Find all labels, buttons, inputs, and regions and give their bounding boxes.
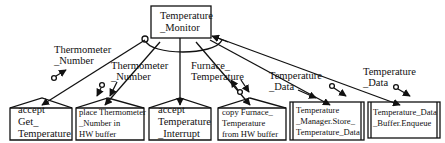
couple-label-2: Thermometer _Number — [111, 60, 168, 82]
couple-label-4: Temperature _Data — [269, 70, 322, 92]
module-label-4: copy Furnace_ Temperature from HW buffer — [222, 107, 278, 140]
module-label-6: Temperature_Data _Buffer.Enqueue — [373, 107, 437, 129]
module-label-5: Temperature _Manager.Store_ Temperature_… — [296, 105, 360, 138]
root-module-label: Temperature _Monitor — [160, 10, 213, 34]
couple-label-1: Thermometer _Number — [54, 44, 111, 66]
module-label-3: accept Temperature _Interrupt — [158, 104, 211, 140]
module-label-2: place Thermometer _Number in HW buffer — [79, 107, 146, 140]
couple-label-5: Temperature _Data — [363, 66, 416, 88]
couple-arrow-1 — [52, 70, 66, 80]
couple-arrow-3 — [231, 80, 249, 94]
module-label-1: accept Get_ Temperature — [18, 104, 71, 140]
couple-label-3: Furnace_ Temperature — [191, 60, 244, 82]
